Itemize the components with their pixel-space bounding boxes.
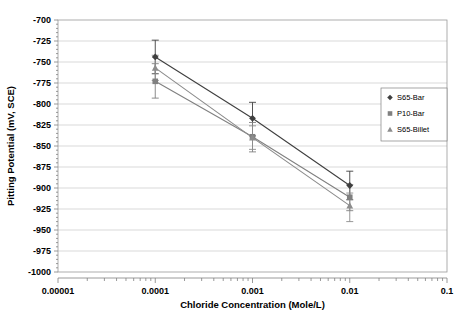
marker-diamond — [249, 115, 256, 122]
y-tick-label: -850 — [33, 141, 51, 151]
y-tick-label: -750 — [33, 57, 51, 67]
legend-item-label: S65-Bar — [397, 93, 425, 102]
y-tick-label: -925 — [33, 204, 51, 214]
y-tick-label: -725 — [33, 36, 51, 46]
x-tick-label: 0.1 — [441, 286, 454, 296]
x-tick-label: 0.01 — [341, 286, 359, 296]
y-axis-ticks: -700-725-750-775-800-825-850-875-900-925… — [28, 15, 58, 277]
y-tick-label: -825 — [33, 120, 51, 130]
marker-triangle — [152, 64, 159, 70]
y-tick-label: -875 — [33, 162, 51, 172]
legend-item-label: S65-Billet — [397, 125, 430, 134]
chart-legend: S65-BarP10-BarS65-Billet — [381, 88, 447, 141]
x-axis-title: Chloride Concentration (Mole/L) — [180, 299, 325, 310]
y-tick-label: -800 — [33, 99, 51, 109]
marker-triangle — [346, 202, 353, 208]
pitting-potential-chart: -700-725-750-775-800-825-850-875-900-925… — [0, 0, 467, 312]
data-series — [152, 40, 354, 221]
y-tick-label: -900 — [33, 183, 51, 193]
marker-square — [388, 111, 393, 116]
chart-canvas: -700-725-750-775-800-825-850-875-900-925… — [0, 0, 467, 312]
y-tick-label: -1000 — [28, 267, 51, 277]
marker-square — [152, 79, 158, 85]
y-tick-label: -700 — [33, 15, 51, 25]
y-tick-label: -775 — [33, 78, 51, 88]
x-axis-ticks: 0.000010.00010.0010.010.1 — [42, 278, 454, 296]
x-tick-label: 0.001 — [241, 286, 264, 296]
x-tick-label: 0.00001 — [42, 286, 75, 296]
marker-diamond — [152, 54, 159, 61]
y-tick-label: -975 — [33, 246, 51, 256]
marker-square — [347, 194, 353, 200]
y-tick-label: -950 — [33, 225, 51, 235]
x-tick-label: 0.0001 — [141, 286, 169, 296]
y-axis-title: Pitting Potential (mV, SCE) — [5, 86, 16, 206]
legend-item-label: P10-Bar — [397, 109, 425, 118]
